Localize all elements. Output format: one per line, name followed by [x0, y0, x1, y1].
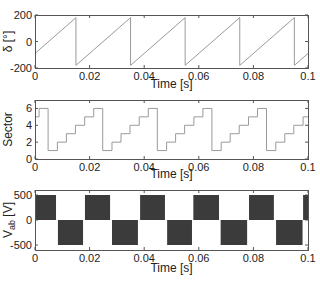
voltage-block	[276, 220, 302, 245]
y-tick-label: -200	[10, 62, 32, 74]
x-tick-label: 0.02	[79, 252, 100, 264]
delta-trace	[35, 18, 308, 66]
voltage-block	[58, 220, 83, 245]
voltage-block	[140, 195, 165, 220]
x-tick-label: 0.08	[243, 161, 264, 173]
y-tick-label: 0	[26, 36, 32, 48]
voltage-block	[249, 195, 274, 220]
y-tick-label: 0	[26, 214, 32, 226]
x-tick-label: 0	[32, 70, 38, 82]
y-axis-label: Vab [V]	[1, 202, 17, 238]
x-tick-label: 0.02	[79, 70, 100, 82]
y-tick-label: 200	[14, 9, 32, 21]
voltage-block	[112, 220, 138, 245]
x-axis-label: Time [s]	[150, 261, 192, 275]
y-tick-label: 4	[26, 119, 32, 131]
y-tick-label: 0	[26, 153, 32, 165]
voltage-block	[85, 195, 110, 220]
x-tick-label: 0.08	[243, 70, 264, 82]
voltage-block	[303, 195, 308, 220]
x-tick-label: 0.08	[243, 252, 264, 264]
y-tick-label: 6	[26, 102, 32, 114]
plot-vab: 00.020.040.060.080.1-5000500Time [s]Vab …	[1, 189, 316, 275]
figure: 00.020.040.060.080.1-2000200Time [s]δ [°…	[0, 0, 320, 282]
x-tick-label: 0.1	[300, 70, 315, 82]
voltage-block	[167, 220, 192, 245]
x-tick-label: 0.02	[79, 161, 100, 173]
plot-delta: 00.020.040.060.080.1-2000200Time [s]δ [°…	[1, 9, 316, 91]
y-tick-label: 500	[14, 189, 32, 201]
y-tick-label: -500	[10, 239, 32, 251]
y-tick-label: 2	[26, 136, 32, 148]
x-axis-label: Time [s]	[150, 77, 192, 91]
y-axis-label: Sector	[1, 112, 15, 147]
plot-sector: 00.020.040.060.080.10246Time [s]Sector	[1, 100, 316, 181]
voltage-block	[193, 195, 219, 220]
voltage-block	[221, 220, 247, 245]
x-tick-label: 0	[32, 252, 38, 264]
sector-trace	[35, 108, 308, 150]
x-tick-label: 0	[32, 161, 38, 173]
voltage-block	[35, 195, 56, 220]
x-tick-label: 0.1	[300, 161, 315, 173]
y-axis-label: δ [°]	[1, 31, 15, 52]
x-axis-label: Time [s]	[150, 167, 192, 181]
x-tick-label: 0.1	[300, 252, 315, 264]
